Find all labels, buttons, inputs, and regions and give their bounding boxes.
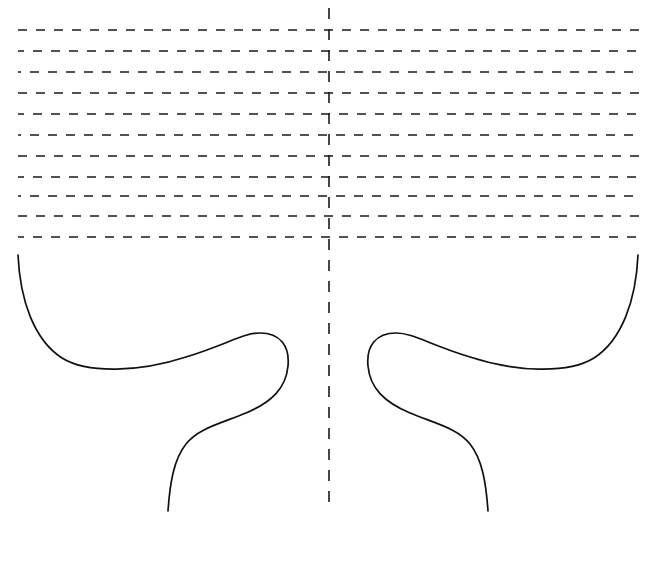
pattern-figure-svg — [0, 0, 656, 575]
diagram-canvas — [0, 0, 656, 575]
canvas-background — [0, 0, 656, 575]
